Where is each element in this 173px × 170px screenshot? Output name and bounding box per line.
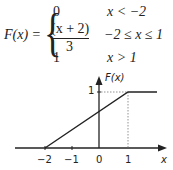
y-axis-label: F(x) xyxy=(105,72,124,83)
x-axis-label: x xyxy=(161,154,167,165)
cdf-line xyxy=(45,92,157,148)
x-tick-label-minus-1: −1 xyxy=(64,154,79,165)
y-axis-arrow-icon xyxy=(96,76,103,85)
x-tick-label-minus-2: −2 xyxy=(37,154,52,165)
x-tick-label-1: 1 xyxy=(125,154,131,165)
x-tick-label-0: 0 xyxy=(96,154,102,165)
x-axis-arrow-icon xyxy=(158,145,167,152)
y-tick-label-1: 1 xyxy=(88,85,94,96)
cdf-graph xyxy=(0,0,173,170)
